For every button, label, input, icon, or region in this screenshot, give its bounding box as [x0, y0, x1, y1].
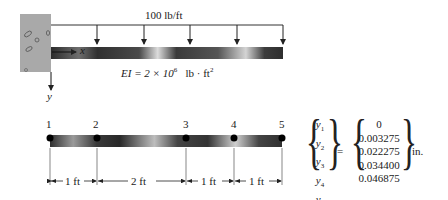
- right-brace-icon: }: [401, 110, 417, 172]
- spacing-label: 1 ft: [201, 176, 216, 187]
- lhs-vector: y1 y2 y3 y4 y5: [312, 118, 328, 200]
- rhs-vector: 0 0.003275 0.022275 0.034400 0.046875: [354, 118, 404, 186]
- node-label: 1: [46, 119, 52, 130]
- node-label: 5: [279, 119, 285, 130]
- spacing-label: 1 ft: [65, 176, 80, 187]
- fixed-wall: [20, 14, 51, 72]
- node-dot: [94, 135, 101, 142]
- discretized-beam: [50, 135, 282, 147]
- node-dot: [279, 135, 286, 142]
- distributed-load: [51, 25, 283, 44]
- units-label: in.: [412, 146, 423, 157]
- node-dot: [231, 135, 238, 142]
- x-axis-label: x: [80, 45, 85, 56]
- right-brace-icon: }: [327, 110, 343, 172]
- y-axis-label: y: [47, 91, 52, 102]
- spacing-label: 1 ft: [249, 176, 264, 187]
- extension-lines: [50, 148, 282, 185]
- spacing-label: 2 ft: [131, 176, 146, 187]
- stiffness-label: EI = 2 × 106 lb · ft2: [121, 67, 213, 79]
- node-dot: [47, 135, 54, 142]
- node-label: 2: [93, 119, 99, 130]
- node-label: 4: [231, 119, 237, 130]
- node-dot: [183, 135, 190, 142]
- load-label: 100 lb/ft: [145, 10, 183, 21]
- cantilever-beam: [51, 47, 283, 59]
- node-label: 3: [183, 119, 189, 130]
- equals-sign: =: [337, 146, 343, 157]
